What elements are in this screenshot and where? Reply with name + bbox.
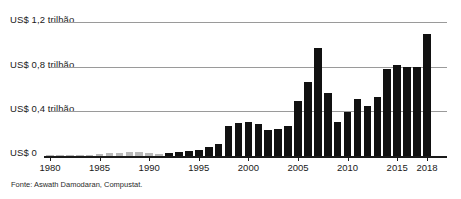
bar-2013	[374, 97, 382, 156]
x-axis-label-2010: 2010	[337, 162, 358, 173]
bar-1998	[225, 126, 233, 156]
x-tick-2015	[397, 156, 398, 161]
bar-chart-figure: US$ 1,2 trilhão US$ 0,8 trilhão US$ 0,4 …	[0, 0, 461, 199]
x-tick-2000	[248, 156, 249, 161]
x-axis-label-2018: 2018	[416, 162, 437, 173]
x-tick-2018	[427, 156, 428, 161]
x-axis-label-2000: 2000	[238, 162, 259, 173]
bar-1996	[205, 147, 213, 156]
bar-2015	[393, 65, 401, 156]
bar-2017	[413, 67, 421, 156]
x-tick-2010	[348, 156, 349, 161]
x-axis-label-1985: 1985	[89, 162, 110, 173]
x-tick-1980	[50, 156, 51, 161]
bar-2011	[354, 99, 362, 156]
bar-2006	[304, 82, 312, 156]
x-axis-label-1995: 1995	[188, 162, 209, 173]
bar-2000	[245, 122, 253, 157]
plot-area	[50, 22, 447, 156]
bar-2016	[403, 67, 411, 156]
x-axis-label-1980: 1980	[39, 162, 60, 173]
bar-2007	[314, 48, 322, 156]
bar-2004	[284, 126, 292, 156]
bar-1999	[235, 123, 243, 157]
bar-2018	[423, 34, 431, 156]
bar-2001	[255, 124, 263, 156]
x-axis-line	[44, 156, 447, 158]
x-tick-1995	[199, 156, 200, 161]
bar-2010	[344, 112, 352, 156]
x-axis-label-2015: 2015	[387, 162, 408, 173]
bar-2005	[294, 101, 302, 156]
bar-2014	[383, 69, 391, 156]
x-axis-label-2005: 2005	[287, 162, 308, 173]
bar-series	[50, 22, 447, 156]
bar-2003	[274, 129, 282, 156]
bar-2012	[364, 106, 372, 156]
bar-2002	[264, 130, 272, 156]
bar-2008	[324, 93, 332, 156]
source-note: Fonte: Aswath Damodaran, Compustat.	[11, 180, 142, 189]
x-tick-2005	[298, 156, 299, 161]
bar-2009	[334, 122, 342, 157]
x-axis-label-1990: 1990	[139, 162, 160, 173]
x-tick-1985	[100, 156, 101, 161]
bar-1997	[215, 144, 223, 156]
x-tick-1990	[149, 156, 150, 161]
y-axis-label-0: US$ 0	[10, 147, 37, 158]
